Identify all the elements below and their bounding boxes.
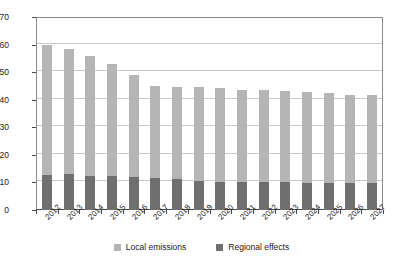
bar-segment-local-emissions[interactable] [280,91,290,182]
x-axis-tick-mark [296,210,297,214]
x-axis-tick-mark [36,210,37,214]
bar-segment-regional-effects[interactable] [107,176,117,210]
bar-segment-local-emissions[interactable] [172,87,182,179]
y-axis-tick-label-10: 10 [0,178,9,187]
bar-group[interactable] [345,95,355,210]
x-axis-tick-mark [123,210,124,214]
bar-segment-regional-effects[interactable] [172,179,182,210]
bar-segment-local-emissions[interactable] [215,88,225,182]
x-axis-tick-mark [275,210,276,214]
y-axis-tick-label-0: 0 [0,206,9,215]
x-axis-tick-mark [144,210,145,214]
bar-group[interactable] [172,87,182,210]
bar-segment-regional-effects[interactable] [302,183,312,210]
x-axis-tick-mark [361,210,362,214]
bar-group[interactable] [280,91,290,210]
bar-segment-regional-effects[interactable] [129,177,139,210]
bar-group[interactable] [194,87,204,210]
x-axis-tick-mark [340,210,341,214]
bar-group[interactable] [302,92,312,210]
bar-segment-regional-effects[interactable] [259,182,269,210]
x-axis-tick-mark [166,210,167,214]
legend-item[interactable]: Local emissions [114,243,186,252]
bar-segment-regional-effects[interactable] [85,176,95,210]
legend-label: Local emissions [126,243,186,252]
x-axis-tick-mark [188,210,189,214]
legend-swatch-icon [216,244,223,251]
bar-segment-regional-effects[interactable] [324,183,334,210]
bar-group[interactable] [259,90,269,210]
bar-segment-regional-effects[interactable] [194,181,204,210]
bar-group[interactable] [129,75,139,210]
x-axis-tick-mark [79,210,80,214]
bar-segment-local-emissions[interactable] [85,56,95,176]
bar-segment-regional-effects[interactable] [42,175,52,210]
x-axis-tick-mark [383,210,384,214]
legend-item[interactable]: Regional effects [216,243,289,252]
y-axis-tick-label-40: 40 [0,95,9,104]
bar-segment-local-emissions[interactable] [107,64,117,176]
x-axis-tick-mark [58,210,59,214]
bar-segment-local-emissions[interactable] [150,86,160,178]
x-axis-tick-mark [231,210,232,214]
bar-segment-regional-effects[interactable] [215,182,225,210]
bar-group[interactable] [42,45,52,210]
bar-group[interactable] [85,56,95,210]
bar-segment-local-emissions[interactable] [345,95,355,183]
x-axis-tick-mark [101,210,102,214]
legend-label: Regional effects [228,243,289,252]
bar-group[interactable] [107,64,117,210]
stacked-bar-chart: 010203040506070 201220132014201520162017… [0,0,403,270]
bar-segment-local-emissions[interactable] [302,92,312,182]
bar-group[interactable] [367,95,377,210]
bar-segment-regional-effects[interactable] [237,182,247,210]
bars-layer [36,17,383,210]
bar-segment-local-emissions[interactable] [42,45,52,175]
bar-segment-local-emissions[interactable] [259,90,269,182]
bar-segment-local-emissions[interactable] [367,95,377,183]
x-axis-tick-mark [253,210,254,214]
bar-segment-local-emissions[interactable] [64,49,74,175]
x-axis-tick-mark [318,210,319,214]
bar-group[interactable] [64,49,74,210]
bar-group[interactable] [215,88,225,210]
bar-segment-local-emissions[interactable] [237,90,247,182]
bar-segment-regional-effects[interactable] [64,174,74,210]
legend-swatch-icon [114,244,121,251]
bar-segment-local-emissions[interactable] [129,75,139,177]
y-axis-tick-label-30: 30 [0,123,9,132]
y-axis-tick-label-20: 20 [0,151,9,160]
bar-segment-local-emissions[interactable] [194,87,204,180]
bar-segment-regional-effects[interactable] [150,178,160,210]
y-axis-tick-label-50: 50 [0,68,9,77]
bar-group[interactable] [237,90,247,210]
bar-group[interactable] [150,86,160,210]
bar-segment-local-emissions[interactable] [324,93,334,183]
bar-group[interactable] [324,93,334,210]
x-axis-tick-mark [210,210,211,214]
y-axis-tick-label-70: 70 [0,13,9,22]
y-axis-tick-label-60: 60 [0,40,9,49]
chart-legend: Local emissionsRegional effects [0,243,403,252]
